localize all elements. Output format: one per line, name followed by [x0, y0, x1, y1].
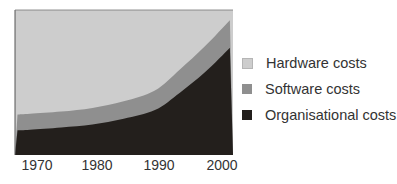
legend-item-software: Software costs: [242, 76, 396, 102]
legend-swatch-organisational: [242, 110, 252, 120]
legend-swatch-software: [242, 84, 252, 94]
stacked-area-chart: [0, 0, 240, 160]
legend-label: Organisational costs: [265, 107, 396, 123]
legend-item-hardware: Hardware costs: [242, 50, 396, 76]
legend-item-organisational: Organisational costs: [242, 102, 396, 128]
x-tick-label: 1980: [72, 157, 122, 173]
legend-label: Hardware costs: [266, 55, 367, 71]
chart-legend: Hardware costs Software costs Organisati…: [242, 50, 396, 128]
legend-label: Software costs: [265, 81, 360, 97]
x-tick-label: 1990: [134, 157, 184, 173]
legend-swatch-hardware: [242, 58, 253, 69]
x-tick-label: 2000: [197, 157, 247, 173]
x-tick-label: 1970: [12, 157, 62, 173]
